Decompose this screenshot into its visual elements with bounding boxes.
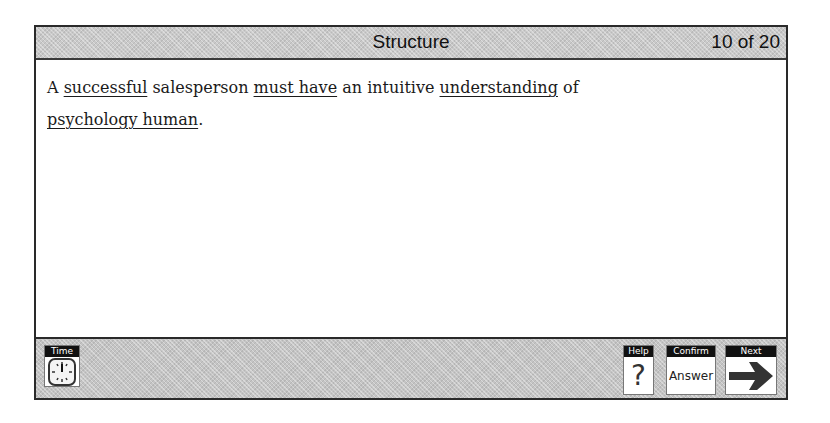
title-bar: Structure 10 of 20 [36,27,786,60]
clock-icon [47,358,77,386]
confirm-label: Confirm [667,346,715,357]
sentence-text: of [558,78,579,97]
answer-text: Answer [669,369,713,383]
section-title: Structure [36,31,786,53]
underlined-option-b[interactable]: must have [254,78,338,97]
help-label: Help [624,346,653,357]
next-label: Next [726,346,776,357]
sentence-text: an intuitive [337,78,439,97]
sentence-text: . [198,110,203,129]
sentence-text: A [47,78,64,97]
test-window: Structure 10 of 20 A successful salesper… [34,25,788,400]
time-button[interactable]: Time [44,345,80,387]
question-area: A successful salesperson must have an in… [36,60,786,337]
question-sentence: A successful salesperson must have an in… [47,72,647,136]
right-arrow-icon [727,359,775,393]
question-mark-icon: ? [631,359,646,392]
sentence-text: salesperson [147,78,253,97]
underlined-option-c[interactable]: understanding [440,78,558,97]
underlined-option-d[interactable]: psychology human [47,110,198,129]
toolbar: Time Help ? Confirm Answer [36,337,786,398]
time-label: Time [45,346,79,357]
help-button[interactable]: Help ? [623,345,654,395]
question-counter: 10 of 20 [711,31,780,53]
underlined-option-a[interactable]: successful [64,78,148,97]
confirm-answer-button[interactable]: Confirm Answer [666,345,716,395]
next-button[interactable]: Next [725,345,777,395]
